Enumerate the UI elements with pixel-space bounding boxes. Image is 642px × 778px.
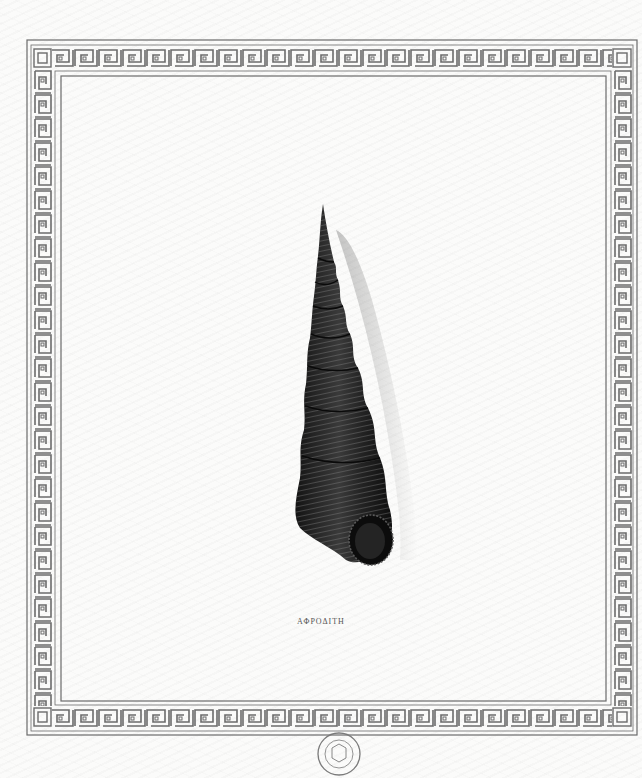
shell-illustration — [295, 204, 393, 565]
plate-caption: ΑΦΡΟΔΙΤΗ — [0, 617, 642, 626]
museum-stamp — [318, 733, 360, 775]
plate-artwork — [0, 0, 642, 778]
